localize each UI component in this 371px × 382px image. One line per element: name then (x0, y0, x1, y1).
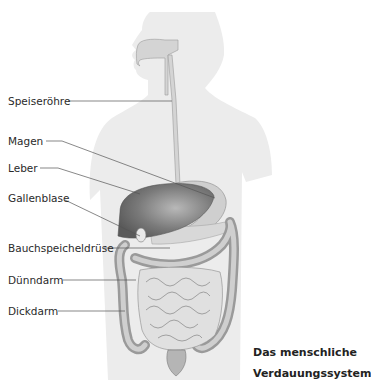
caption-line-2: Verdauungssystem (253, 363, 371, 382)
label-duenndarm: Dünndarm (8, 275, 64, 286)
label-gallenblase: Gallenblase (8, 193, 69, 204)
figure-caption: Das menschliche Verdauungssystem (253, 342, 371, 382)
caption-line-1: Das menschliche (253, 342, 371, 363)
label-leber: Leber (8, 163, 38, 174)
label-magen: Magen (8, 136, 43, 147)
label-bauchspeicheldruese: Bauchspeicheldrüse (8, 243, 114, 254)
label-dickdarm: Dickdarm (8, 306, 58, 317)
label-speiseroehre: Speiseröhre (8, 96, 70, 107)
